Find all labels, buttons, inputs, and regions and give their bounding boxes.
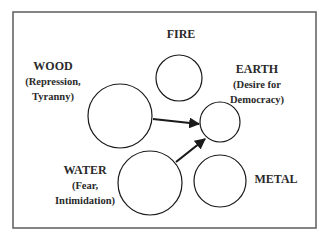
arrows-group <box>153 119 205 162</box>
wood-label: WOOD <box>33 59 73 73</box>
wood-to-earth-arrow <box>153 119 199 124</box>
earth-description: Democracy) <box>230 94 285 106</box>
labels-group: FIREWOOD(Repression,Tyranny)EARTH(Desire… <box>25 27 297 207</box>
wood-description: Tyranny) <box>32 91 74 103</box>
wood-description: (Repression, <box>25 76 81 88</box>
earth-circle <box>200 102 240 142</box>
metal-label: METAL <box>254 172 297 186</box>
five-elements-diagram: FIREWOOD(Repression,Tyranny)EARTH(Desire… <box>0 0 328 240</box>
water-to-earth-arrow <box>176 139 205 162</box>
fire-label: FIRE <box>167 27 196 41</box>
fire-circle <box>156 55 202 101</box>
water-description: Intimidation) <box>55 195 116 207</box>
metal-circle <box>194 155 246 207</box>
wood-circle <box>88 84 152 148</box>
water-label: WATER <box>63 163 106 177</box>
earth-label: EARTH <box>236 62 279 76</box>
circles-group <box>88 55 246 215</box>
water-description: (Fear, <box>72 180 99 192</box>
water-circle <box>118 151 182 215</box>
earth-description: (Desire for <box>233 79 281 91</box>
